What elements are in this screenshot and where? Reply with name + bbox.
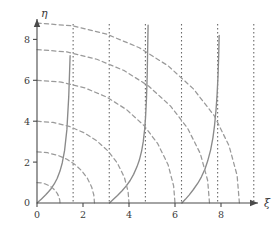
curve-layer bbox=[37, 23, 239, 203]
curve-tan-branch-2 bbox=[109, 25, 148, 203]
tick-labels-layer: 0246824680 bbox=[24, 34, 224, 220]
y-tick-label-2: 2 bbox=[24, 157, 30, 168]
x-tick-label-8: 8 bbox=[218, 209, 224, 220]
curve-circle-R-4 bbox=[37, 80, 175, 203]
y-tick-label-0: 0 bbox=[24, 197, 30, 208]
ticks-layer bbox=[33, 39, 221, 207]
x-tick-label-4: 4 bbox=[126, 209, 132, 220]
x-tick-label-0: 0 bbox=[34, 209, 40, 220]
eigenvalue-plot: 0246824680 ξ η bbox=[0, 0, 276, 232]
curve-circle-R-3 bbox=[37, 121, 129, 203]
x-tick-label-2: 2 bbox=[80, 209, 86, 220]
y-tick-label-6: 6 bbox=[24, 75, 30, 86]
asymptote-layer bbox=[73, 24, 254, 203]
y-tick-label-4: 4 bbox=[24, 116, 30, 127]
curve-tan-branch-3 bbox=[182, 35, 219, 203]
y-tick-label-8: 8 bbox=[24, 34, 30, 45]
curve-circle-R-5 bbox=[37, 50, 210, 203]
x-axis-label: ξ bbox=[264, 197, 271, 210]
plot-root: 0246824680 ξ η bbox=[0, 0, 276, 232]
y-axis-label: η bbox=[41, 7, 48, 20]
curve-tan-branch-1 bbox=[37, 56, 70, 203]
x-tick-label-6: 6 bbox=[172, 209, 178, 220]
